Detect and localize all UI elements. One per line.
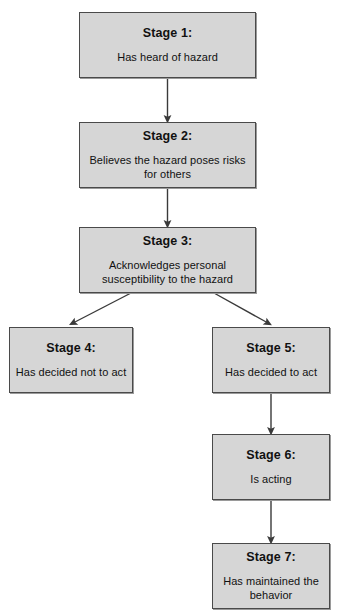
connector-stage3-to-stage4 — [73, 293, 131, 323]
node-stage-7[interactable]: Stage 7: Has maintained the behavior — [212, 543, 330, 609]
node-stage-3-body: Acknowledges personal susceptibility to … — [80, 258, 255, 286]
node-stage-6[interactable]: Stage 6: Is acting — [212, 434, 330, 500]
node-stage-3-title: Stage 3: — [143, 234, 192, 248]
node-stage-5[interactable]: Stage 5: Has decided to act — [212, 327, 330, 393]
node-stage-7-body: Has maintained the behavior — [213, 574, 329, 602]
node-stage-1[interactable]: Stage 1: Has heard of hazard — [79, 12, 256, 78]
node-stage-2-body: Believes the hazard poses risks for othe… — [80, 153, 255, 181]
node-stage-1-title: Stage 1: — [143, 26, 192, 40]
node-stage-5-body: Has decided to act — [220, 365, 322, 379]
node-stage-6-title: Stage 6: — [246, 448, 295, 462]
flowchart-diagram: Stage 1: Has heard of hazard Stage 2: Be… — [0, 0, 342, 616]
node-stage-2-title: Stage 2: — [143, 129, 192, 143]
node-stage-1-body: Has heard of hazard — [112, 50, 223, 64]
node-stage-4-title: Stage 4: — [46, 341, 95, 355]
node-stage-6-body: Is acting — [245, 472, 296, 486]
connector-stage3-to-stage5 — [214, 293, 268, 323]
node-stage-2[interactable]: Stage 2: Believes the hazard poses risks… — [79, 122, 256, 188]
node-stage-4-body: Has decided not to act — [11, 365, 132, 379]
node-stage-5-title: Stage 5: — [246, 341, 295, 355]
node-stage-7-title: Stage 7: — [246, 550, 295, 564]
node-stage-4[interactable]: Stage 4: Has decided not to act — [9, 327, 133, 393]
node-stage-3[interactable]: Stage 3: Acknowledges personal susceptib… — [79, 227, 256, 293]
connector-layer — [0, 0, 342, 616]
